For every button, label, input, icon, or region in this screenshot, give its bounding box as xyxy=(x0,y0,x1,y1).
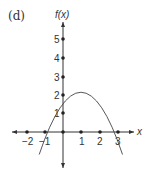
y-axis-label: f(x) xyxy=(55,9,69,20)
y-tick-label: 2 xyxy=(54,90,60,101)
y-axis-up-arrow-icon xyxy=(61,22,65,27)
panel-label: (d) xyxy=(8,9,25,23)
x-tick-label: 2 xyxy=(97,136,103,147)
y-tick-label: 3 xyxy=(54,72,60,83)
x-axis-left-arrow-icon xyxy=(12,130,17,134)
y-tick-label: 4 xyxy=(54,53,60,64)
x-ticks: −2 −1 1 2 3 xyxy=(22,130,121,147)
y-axis: f(x) xyxy=(55,9,69,168)
x-tick-label: −2 xyxy=(22,136,34,147)
x-tick-label: 1 xyxy=(79,136,85,147)
y-axis-down-arrow-icon xyxy=(61,163,65,168)
x-axis-right-arrow-icon xyxy=(129,130,134,134)
parabola-graph: (d) x f(x) −2 −1 1 2 3 1 2 3 4 xyxy=(0,0,149,176)
x-axis-label: x xyxy=(136,126,143,137)
y-tick-label: 5 xyxy=(54,34,60,45)
